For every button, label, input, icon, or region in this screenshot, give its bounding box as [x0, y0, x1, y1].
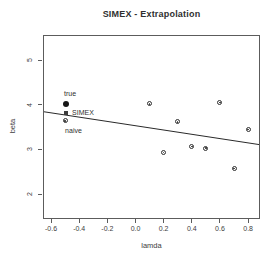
simulated-estimates-point: [232, 166, 237, 171]
x-tick-mark: [79, 219, 80, 223]
naive-estimate-label: naive: [65, 127, 82, 134]
x-axis-label: lamda: [43, 241, 260, 250]
y-tick-mark: [38, 104, 42, 105]
simulated-estimates-point: [246, 127, 251, 132]
x-tick-label: 0.4: [179, 225, 205, 232]
naive-estimate-point: [63, 118, 68, 123]
y-tick-mark: [38, 60, 42, 61]
simex-extrapolation-plot: SIMEX - Extrapolation trueSIMEXnaive lam…: [0, 0, 271, 268]
x-tick-label: -0.2: [94, 225, 120, 232]
plot-area: trueSIMEXnaive: [43, 35, 260, 219]
x-tick-mark: [163, 219, 164, 223]
true-estimate-point: [63, 101, 69, 107]
x-tick-mark: [191, 219, 192, 223]
x-tick-label: 0.2: [151, 225, 177, 232]
simex-estimate-label: SIMEX: [72, 109, 94, 116]
simex-estimate-point: [64, 111, 68, 115]
y-tick-label: 3: [26, 148, 33, 152]
y-tick-label: 4: [26, 103, 33, 107]
x-tick-mark: [248, 219, 249, 223]
true-estimate-label: true: [64, 90, 76, 97]
x-tick-label: 0.8: [235, 225, 261, 232]
y-axis-label: beta: [8, 119, 17, 134]
x-tick-label: 0.6: [207, 225, 233, 232]
x-tick-label: 0.0: [123, 225, 149, 232]
x-tick-mark: [219, 219, 220, 223]
y-tick-mark: [38, 149, 42, 150]
y-tick-label: 2: [26, 192, 33, 196]
x-tick-mark: [107, 219, 108, 223]
x-tick-label: -0.6: [38, 225, 64, 232]
x-tick-label: -0.4: [66, 225, 92, 232]
x-tick-mark: [135, 219, 136, 223]
y-tick-mark: [38, 194, 42, 195]
plot-title: SIMEX - Extrapolation: [43, 9, 260, 19]
y-tick-label: 5: [26, 58, 33, 62]
x-tick-mark: [51, 219, 52, 223]
